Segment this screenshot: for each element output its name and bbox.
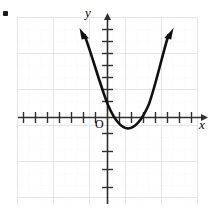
x-axis-label: x (199, 118, 205, 131)
coordinate-plane-plot (0, 0, 213, 208)
graph-figure: y x O (0, 0, 213, 208)
origin-label: O (95, 118, 104, 130)
y-axis-label: y (85, 6, 91, 19)
